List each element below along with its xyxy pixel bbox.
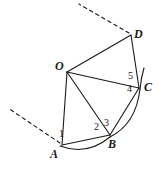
geometry-canvas bbox=[0, 0, 159, 172]
point-label-B: B bbox=[108, 138, 116, 150]
angle-label-1: 1 bbox=[59, 129, 64, 139]
segment-OD bbox=[67, 35, 131, 72]
point-label-A: A bbox=[50, 148, 58, 160]
arc-AB bbox=[60, 137, 110, 149]
angle-label-5: 5 bbox=[128, 71, 133, 81]
segment-AB bbox=[62, 135, 110, 145]
angle-label-2: 2 bbox=[94, 122, 99, 132]
angle-label-3: 3 bbox=[104, 118, 109, 128]
dashed-ray-upper bbox=[79, 4, 129, 33]
point-label-C: C bbox=[144, 81, 152, 93]
point-label-O: O bbox=[55, 60, 64, 72]
arc-BC bbox=[110, 89, 140, 137]
dashed-ray-lower-left bbox=[8, 108, 60, 143]
angle-label-4: 4 bbox=[127, 84, 132, 94]
geometry-diagram: O A B C D 1 2 3 4 5 bbox=[0, 0, 159, 172]
point-label-D: D bbox=[134, 28, 143, 40]
